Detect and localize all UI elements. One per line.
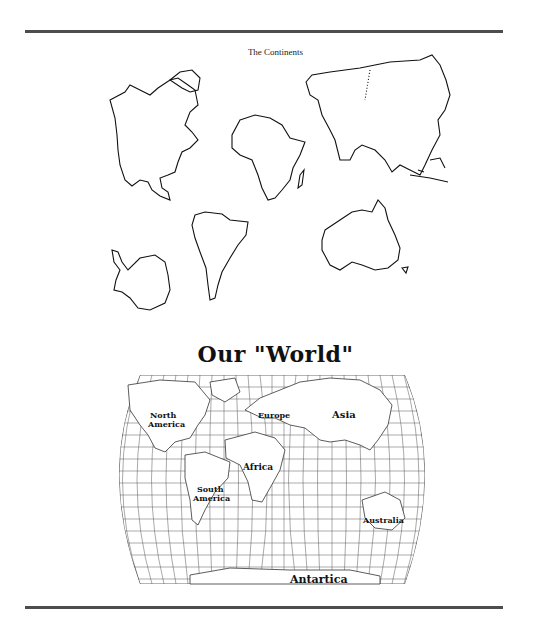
label-antarctica: Antartica <box>289 573 348 586</box>
label-north-america-2: America <box>147 419 185 429</box>
antarctica-outline <box>112 250 170 310</box>
south-america-outline <box>192 212 248 300</box>
north-america-outline <box>110 78 198 200</box>
bottom-divider <box>25 606 503 609</box>
label-africa: Africa <box>242 462 273 472</box>
label-south-america-2: America <box>192 493 230 503</box>
label-australia: Australia <box>362 515 404 525</box>
greenland-outline <box>170 70 200 92</box>
australia-outline <box>322 200 400 270</box>
antarctica-land <box>190 568 380 584</box>
label-asia: Asia <box>331 409 356 420</box>
eurasia-outline <box>306 55 450 175</box>
label-europe: Europe <box>258 410 290 420</box>
southeast-asia-islands <box>410 158 448 182</box>
greenland-land <box>210 378 240 402</box>
tasmania-outline <box>402 267 408 273</box>
world-map-title: Our "World" <box>0 341 551 367</box>
africa-outline <box>232 115 305 200</box>
madagascar-outline <box>298 170 304 188</box>
continents-outline-map <box>0 0 551 320</box>
world-grid-map: North America Europe Asia Africa South A… <box>0 370 551 600</box>
